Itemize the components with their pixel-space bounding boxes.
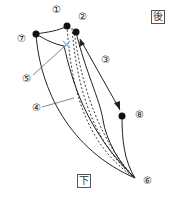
leader-4 xyxy=(42,98,74,107)
label-7: ⑦ xyxy=(17,34,26,44)
inner-top-edge xyxy=(36,34,64,46)
point-2 xyxy=(73,29,80,36)
outer-contour-left xyxy=(36,34,135,178)
label-5: ⑤ xyxy=(22,74,31,84)
top-edge xyxy=(36,26,67,34)
label-8: ⑧ xyxy=(135,110,144,120)
point-8 xyxy=(119,113,126,120)
label-3: ③ xyxy=(101,55,110,65)
tooth-diagram xyxy=(0,0,173,199)
label-1: ① xyxy=(52,5,61,15)
arrow-2-to-8 xyxy=(80,39,120,110)
inner-contour xyxy=(64,46,135,178)
label-4: ④ xyxy=(32,103,41,113)
point-7 xyxy=(33,31,40,38)
point-1 xyxy=(64,23,71,30)
orientation-back-box: 後 xyxy=(151,10,165,24)
segment-8-to-6 xyxy=(122,116,135,178)
arrowhead-down xyxy=(114,101,120,110)
label-2: ② xyxy=(78,12,87,22)
dashed-canal-1 xyxy=(67,26,135,178)
orientation-down-box: 下 xyxy=(77,174,91,188)
label-6: ⑥ xyxy=(143,176,152,186)
